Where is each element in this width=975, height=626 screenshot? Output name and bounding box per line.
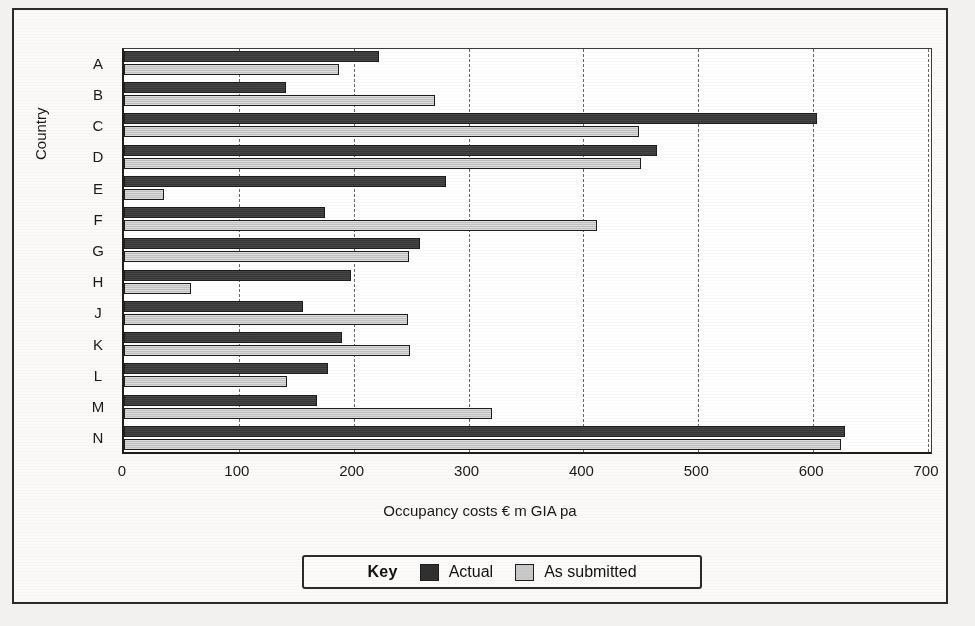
bar-actual xyxy=(124,113,817,124)
bar-as-submitted xyxy=(124,220,597,231)
x-tick-label: 0 xyxy=(118,462,126,479)
bar-row xyxy=(124,332,931,363)
bar-actual xyxy=(124,270,351,281)
bar-as-submitted xyxy=(124,251,409,262)
y-tick-label: H xyxy=(78,274,118,289)
y-tick-label: G xyxy=(78,243,118,258)
x-tick-label: 400 xyxy=(569,462,594,479)
x-tick-label: 500 xyxy=(684,462,709,479)
bar-row xyxy=(124,395,931,426)
x-tick-label: 200 xyxy=(339,462,364,479)
bar-actual xyxy=(124,363,328,374)
y-tick-label: L xyxy=(78,368,118,383)
light-swatch-icon xyxy=(515,564,534,581)
bar-actual xyxy=(124,238,420,249)
bar-as-submitted xyxy=(124,126,639,137)
bar-as-submitted xyxy=(124,345,410,356)
bar-as-submitted xyxy=(124,158,641,169)
y-tick-label: A xyxy=(78,56,118,71)
figure-frame: Country ABCDEFGHJKLMN 010020030040050060… xyxy=(12,8,948,604)
bar-row xyxy=(124,301,931,332)
y-tick-label: D xyxy=(78,149,118,164)
bar-row xyxy=(124,145,931,176)
bar-as-submitted xyxy=(124,189,164,200)
legend-item-as-submitted: As submitted xyxy=(515,563,636,581)
y-axis-label: Country xyxy=(32,107,49,160)
legend-item-actual: Actual xyxy=(420,563,493,581)
bar-actual xyxy=(124,51,379,62)
bar-as-submitted xyxy=(124,95,435,106)
bar-row xyxy=(124,82,931,113)
legend-label-actual: Actual xyxy=(449,563,493,581)
bar-rows xyxy=(124,49,931,452)
bar-actual xyxy=(124,395,317,406)
x-axis-label: Occupancy costs € m GIA pa xyxy=(14,502,946,519)
y-axis-tick-labels: ABCDEFGHJKLMN xyxy=(72,48,118,454)
y-tick-label: C xyxy=(78,118,118,133)
scanned-page: Country ABCDEFGHJKLMN 010020030040050060… xyxy=(0,0,975,626)
x-tick-label: 100 xyxy=(224,462,249,479)
bar-row xyxy=(124,176,931,207)
bar-actual xyxy=(124,301,303,312)
y-tick-label: B xyxy=(78,87,118,102)
bar-actual xyxy=(124,426,845,437)
y-tick-label: J xyxy=(78,305,118,320)
bar-actual xyxy=(124,332,342,343)
chart-legend: Key Actual As submitted xyxy=(302,555,702,589)
bar-row xyxy=(124,270,931,301)
bar-as-submitted xyxy=(124,283,191,294)
bar-as-submitted xyxy=(124,376,287,387)
bar-actual xyxy=(124,207,325,218)
bar-as-submitted xyxy=(124,314,408,325)
bar-row xyxy=(124,207,931,238)
y-tick-label: E xyxy=(78,181,118,196)
bar-row xyxy=(124,426,931,457)
bar-actual xyxy=(124,176,446,187)
bar-row xyxy=(124,113,931,144)
legend-label-as-submitted: As submitted xyxy=(544,563,636,581)
legend-title: Key xyxy=(367,563,397,581)
bar-row xyxy=(124,363,931,394)
dark-swatch-icon xyxy=(420,564,439,581)
x-tick-label: 600 xyxy=(799,462,824,479)
x-tick-label: 700 xyxy=(913,462,938,479)
bar-actual xyxy=(124,82,286,93)
bar-actual xyxy=(124,145,657,156)
bar-as-submitted xyxy=(124,64,339,75)
bar-as-submitted xyxy=(124,408,492,419)
y-tick-label: M xyxy=(78,399,118,414)
y-tick-label: F xyxy=(78,212,118,227)
bar-row xyxy=(124,51,931,82)
bar-as-submitted xyxy=(124,439,841,450)
bar-row xyxy=(124,238,931,269)
x-tick-label: 300 xyxy=(454,462,479,479)
y-tick-label: N xyxy=(78,430,118,445)
plot-area xyxy=(122,48,932,454)
y-tick-label: K xyxy=(78,337,118,352)
